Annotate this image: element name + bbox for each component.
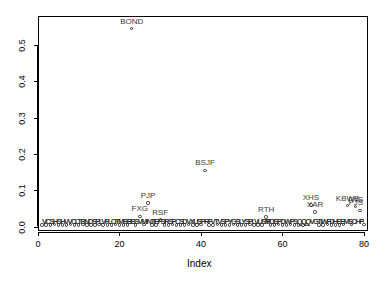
- y-axis-tick-label: 0.1: [18, 181, 27, 201]
- x-axis-tick-label: 0: [26, 240, 50, 249]
- dense-label-band: RSPCSDVXUSPRFVTVSPYGSLYSPLVUSMVMTUMJKDIV…: [164, 218, 270, 226]
- y-axis-tick-label: 0.4: [18, 72, 27, 92]
- x-axis-title: Index: [187, 259, 211, 269]
- point-label-bond: BOND: [120, 18, 143, 26]
- x-axis-tick-label: 60: [270, 240, 294, 249]
- x-axis-tick-label: 80: [352, 240, 376, 249]
- x-axis-line: [38, 232, 364, 233]
- x-axis-tick-label: 20: [107, 240, 131, 249]
- point-label-pjs: PJS: [348, 199, 363, 207]
- y-axis-tick-label: 0.0: [18, 217, 27, 237]
- point-label-pjp: PJP: [141, 192, 156, 200]
- x-axis-tick: [364, 232, 365, 236]
- dense-label-band: FDISPDWPSQQQVGTIWFIJHEEMSCHFVBKSPHDPJPXE…: [266, 218, 364, 226]
- dense-label-band: VCSHSHVVCLTBNDSPLVFLOTMBBBSVMINTIEFSHYGS…: [42, 218, 168, 226]
- data-point: [358, 209, 361, 212]
- x-axis-tick-label: 40: [189, 240, 213, 249]
- point-label-rsf: RSF: [152, 209, 168, 217]
- y-axis-tick-label: 0.5: [18, 36, 27, 56]
- point-label-xar: XAR: [307, 201, 323, 209]
- point-label-bsjf: BSJF: [195, 159, 215, 167]
- data-point: [203, 169, 206, 172]
- y-axis-line: [37, 45, 38, 227]
- scatter-plot-figure: 0.00.10.20.30.40.5 020406080 VCSHSHVVCLT…: [0, 0, 389, 281]
- y-axis-tick-label: 0.2: [18, 145, 27, 165]
- point-label-fxg: FXG: [132, 205, 148, 213]
- data-point: [313, 210, 316, 213]
- y-axis-tick: [34, 227, 38, 228]
- y-axis-tick-label: 0.3: [18, 108, 27, 128]
- point-label-rth: RTH: [258, 206, 274, 214]
